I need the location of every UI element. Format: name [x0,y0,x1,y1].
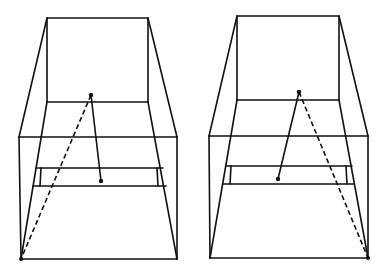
right-apex-point [297,90,301,94]
right-box-figure [209,16,370,260]
diagram-canvas [0,0,383,269]
left-outer-right-top-edge [148,18,177,137]
right-shelf-left-tick [230,166,231,184]
right-outer-left-top-edge [209,16,237,136]
left-box-figure [19,18,177,261]
left-corner-point [19,257,23,261]
left-outer-left-top-edge [19,18,47,137]
right-back-wall [237,16,339,100]
right-shelf-right-tick [346,166,347,184]
right-outer-right-top-edge [339,16,368,136]
left-shelf-right-tick [157,168,158,186]
right-shelf-point [276,177,280,181]
right-floor-left-edge [210,100,237,258]
left-floor-right-edge [148,102,177,259]
left-apex-point [89,93,93,97]
left-shelf-point [99,179,103,183]
right-front-left-vertical [209,136,210,258]
left-floor-left-edge [21,102,47,259]
left-back-wall [47,18,148,102]
left-shelf-left-tick [40,168,41,186]
right-floor-right-edge [339,100,368,258]
right-dashed-segment [299,92,368,258]
left-dashed-segment [21,95,91,259]
left-front-left-vertical [19,137,21,259]
right-corner-point [366,256,370,260]
